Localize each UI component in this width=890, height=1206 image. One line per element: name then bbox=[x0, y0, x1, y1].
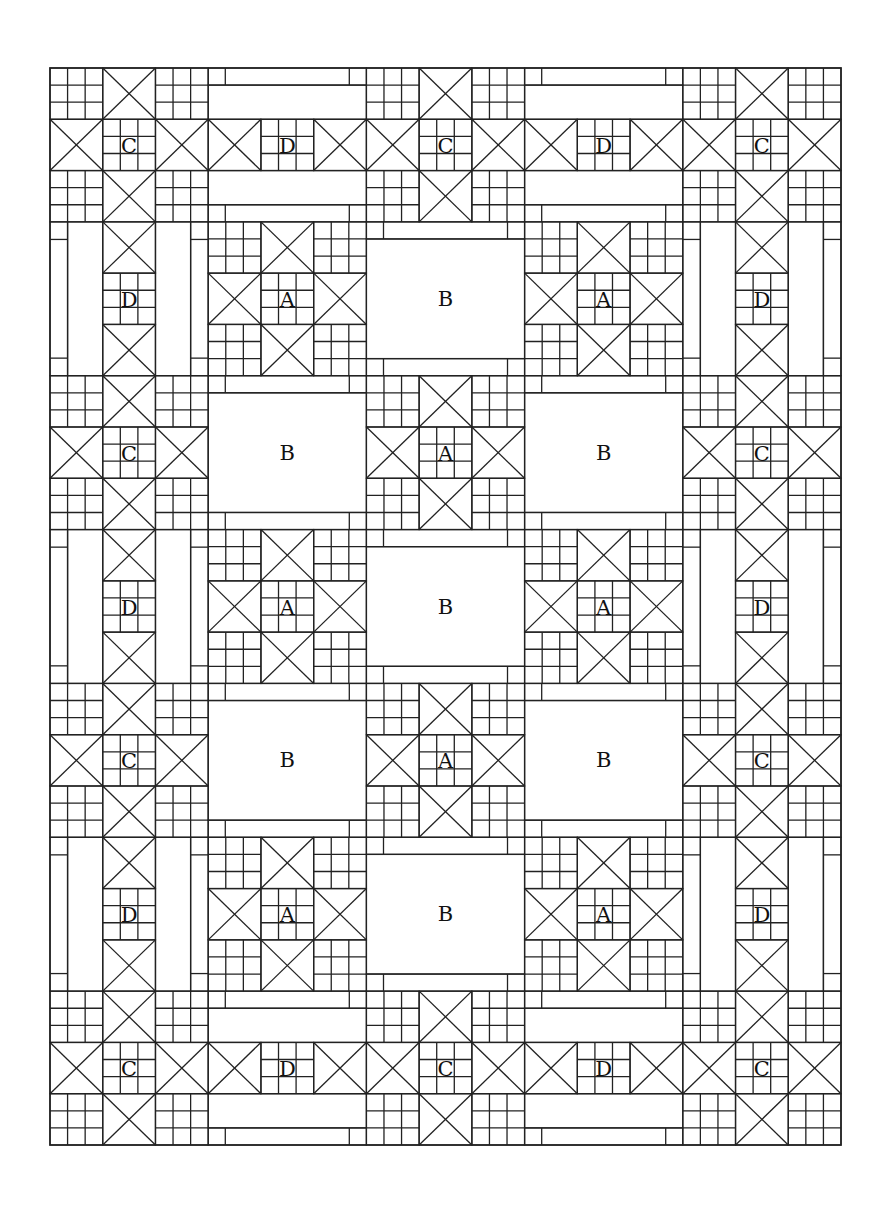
strip-wide bbox=[525, 171, 683, 205]
sashing-strip bbox=[366, 359, 524, 376]
nine-patch bbox=[208, 940, 261, 991]
nine-patch bbox=[155, 1094, 208, 1145]
strip-wide bbox=[525, 85, 683, 119]
block-label-a: A bbox=[279, 288, 296, 312]
hourglass-square bbox=[736, 837, 789, 888]
hourglass-square bbox=[103, 786, 156, 837]
hourglass-square bbox=[103, 68, 156, 119]
nine-patch-border bbox=[314, 940, 367, 991]
block-label-d: D bbox=[279, 134, 296, 158]
nine-patch bbox=[788, 171, 841, 222]
hourglass-square bbox=[683, 1042, 736, 1093]
nine-patch-border bbox=[683, 68, 736, 119]
hourglass-square bbox=[736, 786, 789, 837]
hourglass-square bbox=[630, 889, 683, 940]
strip bbox=[208, 991, 366, 1008]
nine-patch bbox=[208, 324, 261, 375]
nine-patch bbox=[472, 1094, 525, 1145]
strip bbox=[525, 1128, 683, 1145]
strip bbox=[683, 837, 701, 991]
hourglass-square bbox=[366, 119, 419, 170]
strip bbox=[50, 530, 68, 684]
hourglass-square bbox=[577, 632, 630, 683]
nine-patch-border bbox=[630, 530, 683, 581]
hourglass-square bbox=[525, 119, 578, 170]
block-label-a: A bbox=[437, 749, 454, 773]
nine-patch bbox=[472, 171, 525, 222]
nine-patch bbox=[366, 171, 419, 222]
hourglass-square bbox=[419, 478, 472, 529]
nine-patch bbox=[314, 940, 367, 991]
hourglass-square bbox=[261, 632, 314, 683]
nine-patch bbox=[314, 632, 367, 683]
strip-wide bbox=[155, 837, 190, 991]
strip bbox=[50, 222, 68, 376]
block-label-b: B bbox=[596, 748, 611, 772]
hourglass-square bbox=[683, 427, 736, 478]
hourglass-square bbox=[788, 427, 841, 478]
nine-patch bbox=[50, 68, 103, 119]
nine-patch bbox=[366, 683, 419, 734]
quilt-block-d-v-r5c4: D bbox=[683, 837, 841, 991]
sashing-strip bbox=[208, 820, 366, 837]
strip-wide bbox=[208, 85, 366, 119]
block-label-d: D bbox=[753, 596, 770, 620]
nine-patch bbox=[208, 530, 261, 581]
nine-patch-border bbox=[208, 837, 261, 888]
nine-patch bbox=[366, 1094, 419, 1145]
nine-patch-border bbox=[788, 786, 841, 837]
strip bbox=[525, 68, 683, 85]
hourglass-square bbox=[577, 324, 630, 375]
strip bbox=[208, 205, 366, 222]
nine-patch-border bbox=[208, 632, 261, 683]
strip-wide bbox=[788, 222, 823, 376]
nine-patch bbox=[472, 786, 525, 837]
nine-patch-border bbox=[366, 683, 419, 734]
hourglass-square bbox=[630, 581, 683, 632]
nine-patch-border bbox=[788, 376, 841, 427]
strip bbox=[191, 530, 209, 684]
strip-wide bbox=[208, 171, 366, 205]
nine-patch-border bbox=[208, 940, 261, 991]
hourglass-square bbox=[577, 940, 630, 991]
quilt-block-d-v-r3c0: D bbox=[50, 530, 208, 684]
sashing-strip bbox=[208, 376, 366, 393]
nine-patch-border bbox=[314, 530, 367, 581]
nine-patch bbox=[788, 1094, 841, 1145]
quilt-block-c-r4c0: C bbox=[50, 683, 208, 837]
nine-patch-border bbox=[366, 171, 419, 222]
nine-patch-border bbox=[525, 837, 578, 888]
nine-patch-border bbox=[683, 991, 736, 1042]
nine-patch-border bbox=[208, 530, 261, 581]
hourglass-square bbox=[50, 427, 103, 478]
nine-patch bbox=[788, 68, 841, 119]
hourglass-square bbox=[103, 991, 156, 1042]
nine-patch bbox=[155, 683, 208, 734]
nine-patch bbox=[50, 171, 103, 222]
nine-patch-border bbox=[683, 1094, 736, 1145]
block-label-c: C bbox=[121, 134, 137, 158]
hourglass-square bbox=[261, 222, 314, 273]
nine-patch-border bbox=[155, 376, 208, 427]
hourglass-square bbox=[630, 1042, 683, 1093]
hourglass-square bbox=[419, 1094, 472, 1145]
quilt-block-d-h-r6c3: D bbox=[525, 991, 683, 1145]
nine-patch-border bbox=[155, 171, 208, 222]
quilt-block-a-r1c1: A bbox=[208, 222, 366, 376]
hourglass-square bbox=[103, 632, 156, 683]
hourglass-square bbox=[736, 683, 789, 734]
block-label-c: C bbox=[754, 442, 770, 466]
nine-patch-border bbox=[630, 324, 683, 375]
hourglass-square bbox=[155, 119, 208, 170]
sashing-strip bbox=[525, 820, 683, 837]
block-label-d: D bbox=[121, 596, 138, 620]
quilt-block-a-r3c3: A bbox=[525, 530, 683, 684]
strip bbox=[525, 991, 683, 1008]
nine-patch-border bbox=[50, 478, 103, 529]
sashing-strip bbox=[525, 683, 683, 700]
nine-patch-border bbox=[50, 376, 103, 427]
strip-wide bbox=[700, 530, 735, 684]
quilt-block-c-r2c4: C bbox=[683, 376, 841, 530]
hourglass-square bbox=[155, 427, 208, 478]
hourglass-square bbox=[472, 1042, 525, 1093]
